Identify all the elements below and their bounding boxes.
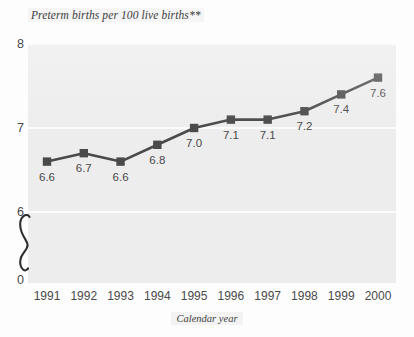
- data-point-marker: [43, 157, 51, 165]
- y-axis-tick-label: 7: [2, 121, 24, 135]
- data-point-marker: [227, 115, 235, 123]
- x-axis-tick-label: 1995: [181, 289, 208, 303]
- x-axis-tick-label: 1993: [107, 289, 134, 303]
- data-point-label: 7.0: [186, 137, 202, 149]
- x-axis-title-text: Calendar year: [171, 312, 244, 325]
- x-axis-tick-label: 1994: [144, 289, 171, 303]
- data-point-label: 6.6: [39, 171, 55, 183]
- x-axis-tick-label: 1996: [218, 289, 245, 303]
- data-point-marker: [300, 107, 308, 115]
- data-point-label: 6.6: [113, 171, 129, 183]
- x-axis-tick-label: 2000: [365, 289, 392, 303]
- x-axis-title: Calendar year: [0, 313, 414, 324]
- chart-figure: Preterm births per 100 live births** 6.6…: [0, 0, 414, 337]
- series-line: [47, 78, 378, 162]
- chart-title: Preterm births per 100 live births**: [28, 8, 204, 22]
- data-point-marker: [374, 73, 382, 81]
- x-axis-tick-label: 1998: [291, 289, 318, 303]
- x-axis-tick-label: 1999: [328, 289, 355, 303]
- data-point-label: 6.8: [149, 154, 165, 166]
- x-axis-tick-label: 1991: [34, 289, 61, 303]
- y-axis: 0678: [0, 0, 24, 337]
- x-axis-tick-label: 1992: [70, 289, 97, 303]
- data-point-marker: [116, 157, 124, 165]
- data-point-label: 6.7: [76, 162, 92, 174]
- data-point-marker: [263, 115, 271, 123]
- y-axis-tick-label: 0: [2, 273, 24, 287]
- data-point-marker: [80, 149, 88, 157]
- x-axis-tick-label: 1997: [254, 289, 281, 303]
- y-axis-tick-label: 8: [2, 37, 24, 51]
- data-point-marker: [190, 124, 198, 132]
- data-point-label: 7.1: [223, 129, 239, 141]
- data-point-label: 7.4: [333, 103, 349, 115]
- data-point-marker: [337, 90, 345, 98]
- data-point-label: 7.2: [296, 120, 312, 132]
- data-point-marker: [153, 141, 161, 149]
- data-point-label: 7.1: [260, 129, 276, 141]
- data-point-label: 7.6: [370, 87, 386, 99]
- axis-break-icon: [14, 214, 36, 272]
- plot-area: 6.66.76.66.87.07.17.17.27.47.6: [28, 44, 396, 283]
